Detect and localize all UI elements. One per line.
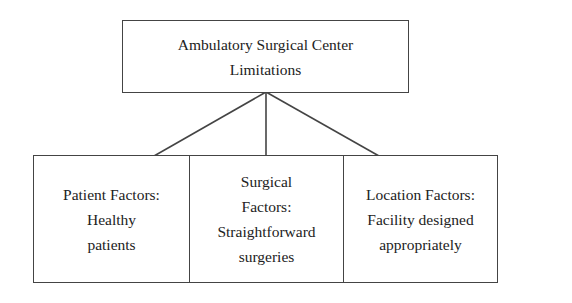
root-node: Ambulatory Surgical Center Limitations <box>122 20 409 93</box>
child-line: appropriately <box>366 232 475 257</box>
root-line-2: Limitations <box>178 57 353 82</box>
child-line: Factors: <box>217 194 315 219</box>
root-line-1: Ambulatory Surgical Center <box>178 32 353 57</box>
child-line: Location Factors: <box>366 182 475 207</box>
child-line: Straightforward <box>217 219 315 244</box>
child-line: Surgical <box>217 169 315 194</box>
child-line: surgeries <box>217 244 315 269</box>
root-label: Ambulatory Surgical Center Limitations <box>178 32 353 82</box>
child-node-location-factors: Location Factors: Facility designed appr… <box>343 155 498 283</box>
child-line: Healthy <box>63 207 160 232</box>
child-label: Location Factors: Facility designed appr… <box>366 182 475 257</box>
child-line: patients <box>63 232 160 257</box>
child-line: Patient Factors: <box>63 182 160 207</box>
child-label: Patient Factors: Healthy patients <box>63 182 160 257</box>
child-node-patient-factors: Patient Factors: Healthy patients <box>33 155 190 283</box>
child-line: Facility designed <box>366 207 475 232</box>
child-node-surgical-factors: Surgical Factors: Straightforward surger… <box>189 155 345 283</box>
child-label: Surgical Factors: Straightforward surger… <box>217 169 315 269</box>
